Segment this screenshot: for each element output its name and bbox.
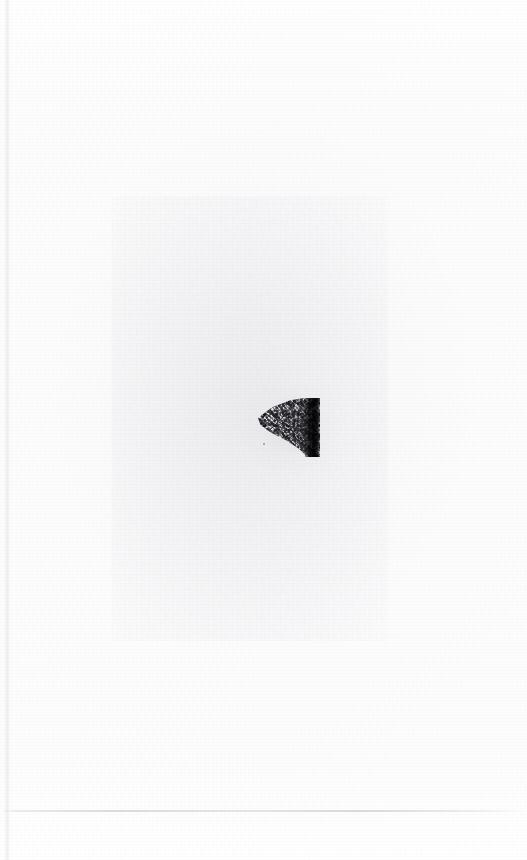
baseline-rule bbox=[0, 810, 527, 812]
scanned-page bbox=[0, 0, 527, 860]
ink-dark-bar bbox=[305, 398, 320, 457]
scan-gutter-edge bbox=[4, 0, 11, 860]
ink-speck bbox=[263, 443, 265, 445]
ink-smudge bbox=[258, 398, 320, 457]
